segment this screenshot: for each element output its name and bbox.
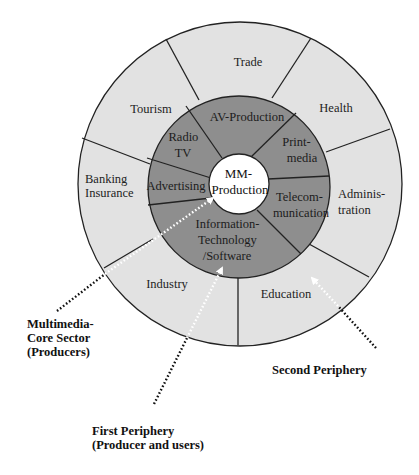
- outer-segment-banking-insurance: Banking Insurance: [85, 172, 134, 200]
- callout-second-periphery: Second Periphery: [272, 363, 368, 377]
- inner-segment-av-production: AV-Production: [210, 110, 285, 124]
- callout-multimedia-core-sector: Multimedia- Core Sector (Producers): [27, 317, 97, 359]
- outer-segment-education: Education: [261, 287, 312, 301]
- outer-segment-industry: Industry: [146, 277, 188, 291]
- outer-segment-health: Health: [319, 101, 353, 115]
- inner-segment-advertising: Advertising: [146, 179, 206, 193]
- outer-segment-tourism: Tourism: [130, 102, 172, 116]
- multimedia-sector-diagram: MM- Production AV-Production Print- medi…: [0, 0, 419, 475]
- outer-segment-trade: Trade: [234, 55, 263, 69]
- callout-first-periphery: First Periphery (Producer and users): [92, 424, 204, 452]
